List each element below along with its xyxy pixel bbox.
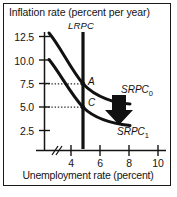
point-c-marker	[81, 105, 86, 110]
point-a-marker	[81, 82, 86, 87]
page-text-fragment	[0, 188, 177, 197]
phillips-curve-figure: Inflation rate (percent per year) LRPC 1…	[0, 0, 177, 197]
srpc0-curve	[49, 33, 130, 104]
chart-plot-area	[0, 0, 177, 197]
